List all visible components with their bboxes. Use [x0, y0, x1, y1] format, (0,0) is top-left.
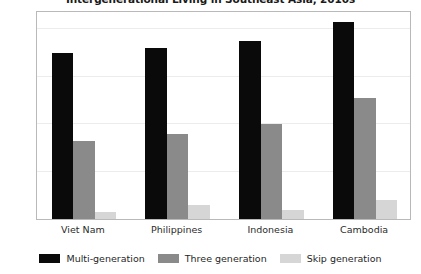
chart-figure: Intergenerational Living in Southeast As…	[0, 0, 421, 274]
legend-item[interactable]: Three generation	[158, 253, 267, 264]
bar	[282, 210, 304, 220]
bar	[188, 205, 210, 219]
x-tick-label: Cambodia	[340, 224, 388, 235]
plot-area	[36, 11, 411, 220]
legend-label: Skip generation	[307, 253, 382, 264]
bar	[376, 200, 398, 219]
bar	[261, 124, 283, 219]
x-tick-label: Viet Nam	[61, 224, 105, 235]
bar	[73, 141, 95, 219]
legend-label: Three generation	[185, 253, 267, 264]
legend-swatch-icon	[280, 254, 301, 263]
legend-swatch-icon	[158, 254, 179, 263]
bar	[145, 48, 167, 219]
legend-item[interactable]: Skip generation	[280, 253, 382, 264]
chart-legend: Multi-generationThree generationSkip gen…	[0, 253, 421, 264]
bar	[167, 134, 189, 220]
legend-item[interactable]: Multi-generation	[39, 253, 144, 264]
x-tick-label: Indonesia	[247, 224, 293, 235]
legend-swatch-icon	[39, 254, 60, 263]
chart-title: Intergenerational Living in Southeast As…	[0, 0, 421, 5]
legend-label: Multi-generation	[66, 253, 144, 264]
bar	[52, 53, 74, 219]
bar	[333, 22, 355, 219]
bar	[95, 212, 117, 219]
x-tick-label: Philippines	[151, 224, 202, 235]
bar	[239, 41, 261, 219]
bar	[354, 98, 376, 219]
